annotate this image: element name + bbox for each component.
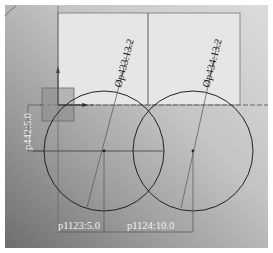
right-horizontal-dimension[interactable]: p1124:10.0 <box>127 220 174 231</box>
left-horizontal-dimension[interactable]: p1123:5.0 <box>58 220 100 231</box>
sketch-canvas[interactable]: Øp433:13.2 Øp434:13.2 p442:5.0 p1123:5.0… <box>0 0 273 253</box>
vertical-offset-dimension[interactable]: p442:5.0 <box>22 113 33 150</box>
